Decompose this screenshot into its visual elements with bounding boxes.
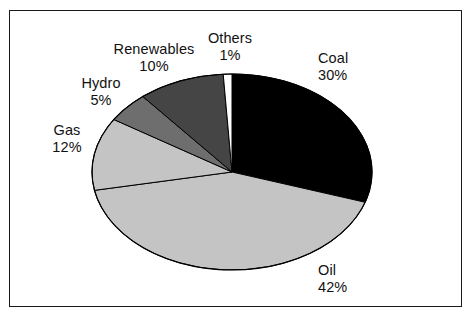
pie-label-coal-name: Coal [318, 50, 380, 67]
pie-label-hydro-value: 5% [70, 92, 132, 109]
pie-label-oil: Oil 42% [318, 262, 374, 296]
pie-label-renewables-name: Renewables [104, 41, 204, 58]
pie-label-hydro-name: Hydro [70, 75, 132, 92]
chart-canvas: Others 1% Renewables 10% Hydro 5% Gas 12… [0, 0, 473, 320]
pie-label-gas: Gas 12% [38, 122, 96, 156]
pie-label-oil-value: 42% [318, 279, 374, 296]
pie-label-hydro: Hydro 5% [70, 75, 132, 109]
pie-label-others-value: 1% [198, 47, 262, 64]
pie-label-gas-name: Gas [38, 122, 96, 139]
pie-label-coal-value: 30% [318, 67, 380, 84]
pie-label-renewables-value: 10% [104, 58, 204, 75]
pie-label-oil-name: Oil [318, 262, 374, 279]
pie-label-coal: Coal 30% [318, 50, 380, 84]
pie-label-renewables: Renewables 10% [104, 41, 204, 75]
pie-label-others-name: Others [198, 30, 262, 47]
pie-label-others: Others 1% [198, 30, 262, 64]
pie-label-gas-value: 12% [38, 139, 96, 156]
